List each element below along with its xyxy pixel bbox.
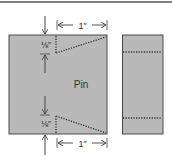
top-offset-label: ⅛″: [41, 40, 51, 50]
bottom-offset-label: ⅛″: [41, 119, 51, 129]
top-dim-label: 1″: [78, 21, 87, 31]
pin-label: Pin: [74, 79, 88, 90]
pin-diagram: 1″ 1″ ⅛″ ⅛″ Pin: [0, 0, 172, 164]
bottom-dim-label: 1″: [78, 139, 87, 149]
pin-board-face: [9, 35, 107, 134]
pin-board-side: [123, 35, 164, 134]
